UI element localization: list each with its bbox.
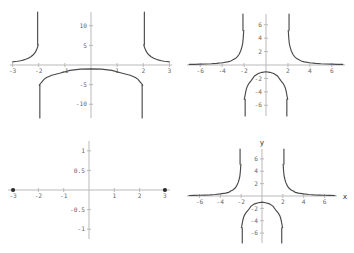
plot-svg-bottom-left: -3-2-112310.5-0.5-1 <box>0 127 177 253</box>
x-tick-label: -4 <box>217 198 225 205</box>
x-tick-label: -6 <box>196 67 204 74</box>
y-tick-label: 10 <box>80 22 88 29</box>
y-tick-label: 2 <box>254 180 258 187</box>
axes-group-bottom-left: -3-2-112310.5-0.5-1 <box>8 141 170 239</box>
axes-group-bottom-right: -6-4-2246642-2-4-6xy <box>187 138 348 243</box>
x-tick-label: -3 <box>9 192 17 199</box>
x-tick-label: -6 <box>196 198 204 205</box>
x-tick-label: -1 <box>60 192 68 199</box>
axes-group-top-right: -6-4-2246642-2-4-6 <box>187 14 345 116</box>
y-tick-label: 1 <box>81 147 85 154</box>
y-axis-label: y <box>260 138 265 147</box>
curve-right-branch <box>144 45 170 62</box>
x-tick-label: 2 <box>281 198 285 205</box>
x-tick-label: -4 <box>218 67 226 74</box>
x-tick-label: 4 <box>308 67 312 74</box>
plot-svg-top-right: -6-4-2246642-2-4-6 <box>177 0 354 127</box>
x-tick-label: 3 <box>168 67 172 74</box>
y-tick-label: 0.5 <box>74 167 85 174</box>
plot-panel-bottom-left[interactable]: -3-2-112310.5-0.5-1 <box>0 127 177 253</box>
x-tick-label: 1 <box>115 67 119 74</box>
curve-left-branch <box>189 164 241 195</box>
y-tick-label: -10 <box>76 100 87 107</box>
x-tick-label: -3 <box>9 67 17 74</box>
x-tick-label: -2 <box>237 198 245 205</box>
x-tick-label: 2 <box>141 67 145 74</box>
left-endpoint <box>11 188 15 192</box>
plot-panel-top-right[interactable]: -6-4-2246642-2-4-6 <box>177 0 354 127</box>
curve-left-branch <box>189 31 244 65</box>
y-tick-label: 5 <box>83 42 87 49</box>
y-tick-label: 4 <box>258 34 262 41</box>
y-tick-label: -6 <box>251 229 259 236</box>
x-tick-label: 1 <box>112 192 116 199</box>
x-tick-label: 6 <box>330 67 334 74</box>
x-tick-label: 2 <box>138 192 142 199</box>
y-tick-label: 6 <box>258 21 262 28</box>
y-tick-label: 2 <box>258 48 262 55</box>
axes-group-top-left: -3-2-1123105-5-10 <box>9 12 172 118</box>
y-tick-label: -4 <box>255 88 263 95</box>
x-tick-label: -2 <box>240 67 248 74</box>
y-tick-label: 6 <box>254 155 258 162</box>
y-tick-label: -4 <box>251 217 259 224</box>
y-tick-label: 4 <box>254 167 258 174</box>
y-tick-label: -0.5 <box>70 206 85 213</box>
curve-left-branch <box>13 45 39 62</box>
x-tick-label: 3 <box>163 192 167 199</box>
curve-right-branch <box>288 31 343 65</box>
x-tick-label: 2 <box>286 67 290 74</box>
four-plot-figure: -3-2-1123105-5-10 -6-4-2246642-2-4-6 -3-… <box>0 0 354 253</box>
y-tick-label: -6 <box>255 101 263 108</box>
curve-right-branch <box>283 164 335 195</box>
x-tick-label: -2 <box>35 67 43 74</box>
y-tick-label: -1 <box>78 225 86 232</box>
x-tick-label: 4 <box>302 198 306 205</box>
x-axis-label: x <box>343 192 348 201</box>
plot-svg-top-left: -3-2-1123105-5-10 <box>0 0 177 127</box>
x-tick-label: -2 <box>35 192 43 199</box>
right-endpoint <box>163 188 167 192</box>
plot-svg-bottom-right: -6-4-2246642-2-4-6xy <box>177 127 354 253</box>
y-tick-label: -5 <box>80 81 88 88</box>
plot-panel-bottom-right[interactable]: -6-4-2246642-2-4-6xy <box>177 127 354 253</box>
x-tick-label: 6 <box>323 198 327 205</box>
plot-panel-top-left[interactable]: -3-2-1123105-5-10 <box>0 0 177 127</box>
